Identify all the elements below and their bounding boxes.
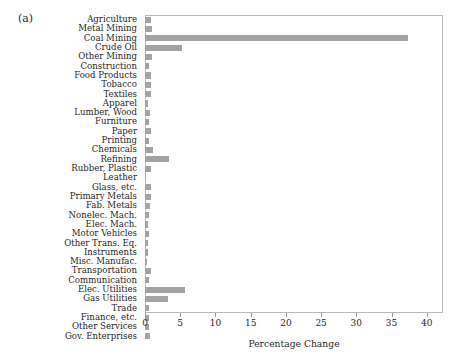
x-axis-tick [180,313,181,317]
bar-row [145,257,443,266]
bar [145,231,149,237]
bar [145,26,152,32]
bar-row [145,62,443,71]
bar [145,110,150,116]
bar [145,305,149,311]
bar-row [145,71,443,80]
x-axis: 0510152025303540 [145,313,443,314]
bar-row [145,211,443,220]
bar [145,119,149,125]
bar [145,54,152,60]
bar-row [145,127,443,136]
bar-row [145,52,443,61]
bar-row [145,155,443,164]
bar [145,249,148,255]
x-axis-tick-label: 20 [280,318,291,328]
bar [145,72,151,78]
x-axis-tick [321,313,322,317]
x-axis-title: Percentage Change [145,338,443,349]
bar [145,166,151,172]
bar [145,63,149,69]
bar [145,138,149,144]
bar [145,156,169,162]
category-axis-labels: AgricultureMetal MiningCoal MiningCrude … [0,15,141,313]
bar [145,277,149,283]
bar [145,17,151,23]
x-axis-tick-label: 15 [245,318,256,328]
bar [145,82,151,88]
bar-row [145,43,443,52]
bar [145,212,149,218]
bar-row [145,80,443,89]
x-axis-tick-label: 35 [386,318,397,328]
bar [145,221,148,227]
x-axis-tick-label: 5 [177,318,183,328]
bar-row [145,90,443,99]
bar [145,184,151,190]
bar-row [145,15,443,24]
bar [145,240,148,246]
bar [145,147,153,153]
bar-row [145,173,443,182]
x-axis-tick [356,313,357,317]
bar [145,194,151,200]
bar-row [145,99,443,108]
bar-row [145,276,443,285]
bar [145,35,408,41]
bar-row [145,229,443,238]
bar-row [145,220,443,229]
bar [145,287,185,293]
bar-row [145,304,443,313]
x-axis-tick-label: 0 [142,318,148,328]
bar-row [145,322,443,331]
category-label: Gov. Enterprises [0,332,141,341]
x-axis-tick-label: 40 [421,318,432,328]
x-axis-tick-label: 25 [315,318,326,328]
bar-row [145,266,443,275]
x-axis-tick-label: 10 [210,318,221,328]
bar-row [145,294,443,303]
x-axis-tick [251,313,252,317]
x-axis-tick [215,313,216,317]
bar-row [145,164,443,173]
bar-row [145,136,443,145]
bar-row [145,183,443,192]
bar [145,203,150,209]
bar-row [145,239,443,248]
x-axis-tick [145,313,146,317]
bar-row [145,34,443,43]
bar [145,268,151,274]
bar [145,45,182,51]
x-axis-tick [286,313,287,317]
bar-row [145,117,443,126]
bar-row [145,248,443,257]
x-axis-tick [392,313,393,317]
bar [145,175,146,181]
bar-row [145,285,443,294]
bar-series [145,15,443,313]
bar [145,259,147,265]
bar-row [145,192,443,201]
bar [145,91,151,97]
x-axis-tick-label: 30 [351,318,362,328]
bar [145,100,148,106]
bar-row [145,201,443,210]
bar-row [145,108,443,117]
bar [145,296,168,302]
figure-panel: (a) AgricultureMetal MiningCoal MiningCr… [0,0,472,360]
x-axis-tick [427,313,428,317]
bar-row [145,313,443,322]
bar-row [145,145,443,154]
bar-row [145,24,443,33]
bar [145,128,151,134]
